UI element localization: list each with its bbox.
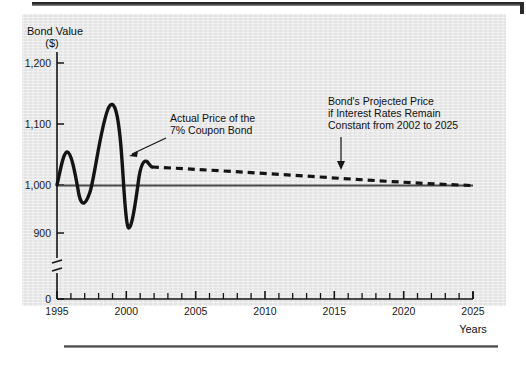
x-tick-label-2020: 2020	[392, 305, 416, 317]
x-major-tick-group	[57, 291, 473, 299]
y-tick-label-1200: 1,200	[25, 57, 51, 69]
projected-price-arrowhead-icon	[337, 161, 345, 170]
x-tick-label-2010: 2010	[253, 305, 277, 317]
actual-price-annotation-line1: Actual Price of the	[170, 112, 255, 124]
projected-price-annotation-line3: Constant from 2002 to 2025	[328, 119, 458, 131]
y-tick-label-1000: 1,000	[25, 179, 51, 191]
y-tick-label-1100: 1,100	[25, 118, 51, 130]
actual-price-line	[57, 105, 152, 228]
x-tick-label-2000: 2000	[115, 305, 139, 317]
scan-bottom-rule	[64, 345, 498, 348]
x-axis-title: Years	[459, 323, 487, 335]
y-axis-break-mark-lower	[52, 268, 62, 271]
projected-price-annotation-line2: if Interest Rates Remain	[328, 107, 441, 119]
y-axis-title-line2: ($)	[45, 37, 58, 49]
y-axis-title-line1: Bond Value	[27, 25, 83, 37]
y-tick-label-0: 0	[45, 293, 51, 305]
x-tick-label-1995: 1995	[45, 305, 69, 317]
actual-price-annotation-line2: 7% Coupon Bond	[170, 124, 252, 136]
x-tick-label-2025: 2025	[461, 305, 485, 317]
y-tick-label-900: 900	[33, 227, 51, 239]
x-tick-label-2005: 2005	[184, 305, 208, 317]
y-axis-break-mark-upper	[52, 260, 62, 263]
actual-price-arrowhead-icon	[129, 151, 138, 157]
projected-price-annotation-line1: Bond's Projected Price	[328, 95, 434, 107]
projected-price-dashed-line	[152, 167, 471, 186]
x-tick-label-2015: 2015	[323, 305, 347, 317]
bond-value-chart: Bond Value ($) 1,200 1,100 1,000 900 0	[0, 0, 526, 367]
